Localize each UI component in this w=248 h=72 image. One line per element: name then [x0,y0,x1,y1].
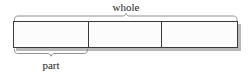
diagram-canvas: whole part [0,0,248,72]
bar-rectangle [14,22,238,48]
part-whole-diagram: whole part [0,0,248,72]
whole-label: whole [113,1,140,13]
whole-brace [15,13,238,20]
part-label: part [42,59,59,71]
